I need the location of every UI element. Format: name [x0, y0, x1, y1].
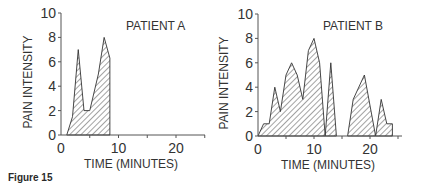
chart-patient-b: 024681001020PATIENT BTIME (MINUTES)PAIN …	[217, 6, 402, 172]
y-axis-label: PAIN INTENSITY	[217, 36, 231, 129]
y-tick-label: 8	[245, 30, 253, 46]
x-tick-label: 10	[306, 141, 322, 157]
x-tick-label: 20	[168, 140, 184, 156]
pain-area	[258, 38, 325, 136]
x-axis-label: TIME (MINUTES)	[281, 158, 375, 172]
x-tick-label: 10	[111, 140, 127, 156]
y-tick-label: 4	[48, 78, 56, 94]
y-tick-label: 10	[40, 5, 56, 21]
pain-area	[325, 63, 336, 136]
y-tick-label: 0	[48, 127, 56, 143]
pain-area	[67, 37, 110, 135]
x-tick-label: 0	[254, 141, 262, 157]
pain-area	[376, 99, 393, 136]
y-tick-label: 2	[245, 104, 253, 120]
y-tick-label: 6	[48, 54, 56, 70]
y-tick-label: 8	[48, 29, 56, 45]
x-tick-label: 0	[57, 140, 65, 156]
y-tick-label: 2	[48, 103, 56, 119]
chart-patient-a: 024681001020PATIENT ATIME (MINUTES)PAIN …	[21, 5, 205, 171]
figure-canvas: 024681001020PATIENT ATIME (MINUTES)PAIN …	[0, 0, 422, 191]
x-axis-label: TIME (MINUTES)	[84, 157, 178, 171]
pain-area	[348, 75, 376, 136]
panel-title: PATIENT B	[323, 19, 383, 33]
y-tick-label: 4	[245, 79, 253, 95]
y-tick-label: 0	[245, 128, 253, 144]
panel-title: PATIENT A	[126, 19, 185, 33]
figure-caption: Figure 15	[8, 172, 52, 183]
y-tick-label: 10	[237, 6, 253, 22]
y-axis-label: PAIN INTENSITY	[21, 35, 35, 128]
y-tick-label: 6	[245, 55, 253, 71]
x-tick-label: 20	[362, 141, 378, 157]
